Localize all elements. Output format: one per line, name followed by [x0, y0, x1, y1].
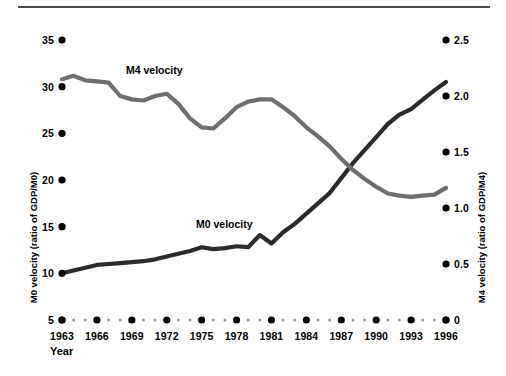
y-axis-tick-dot	[442, 316, 449, 323]
x-axis-tick-label: 1981	[260, 330, 284, 342]
series-lines-group	[62, 76, 446, 273]
x-axis-minor-dot	[189, 319, 192, 322]
x-axis-minor-dot	[247, 319, 250, 322]
y-axis-right-tick-label: 1.0	[454, 202, 469, 214]
x-axis-tick-label: 1996	[434, 330, 458, 342]
y-axis-tick-dot	[58, 130, 65, 137]
x-axis-tick-label: 1993	[399, 330, 423, 342]
x-axis-major-dot	[407, 316, 414, 323]
x-axis-tick-label: 1972	[155, 330, 179, 342]
y-axis-right-tick-label: 2.5	[454, 34, 469, 46]
y-axis-tick-dot	[58, 223, 65, 230]
y-axis-tick-dot	[442, 204, 449, 211]
x-axis-tick-label: 1987	[329, 330, 353, 342]
x-axis-tick-label: 1990	[364, 330, 388, 342]
y-axis-tick-dot	[58, 316, 65, 323]
x-axis-minor-dot	[107, 319, 110, 322]
x-axis-minor-dot	[317, 319, 320, 322]
y-axis-left-tick-label: 30	[6, 81, 54, 93]
x-axis-major-dot	[93, 316, 100, 323]
chart-plot-area	[0, 0, 506, 376]
x-axis-minor-dot	[328, 319, 331, 322]
x-axis-minor-dot	[398, 319, 401, 322]
y-axis-right-title: M4 velocity (ratio of GDP/M4)	[476, 143, 487, 333]
x-axis-tick-label: 1969	[120, 330, 144, 342]
x-axis-minor-dot	[363, 319, 366, 322]
y-axis-right-dot-markers	[442, 36, 449, 323]
x-axis-minor-dot	[433, 319, 436, 322]
series-annotation-m0: M0 velocity	[196, 218, 253, 230]
x-axis-tick-label: 1963	[50, 330, 74, 342]
x-axis-minor-dot	[119, 319, 122, 322]
x-axis-minor-dot	[421, 319, 424, 322]
x-axis-minor-dot	[154, 319, 157, 322]
chart-figure: 5101520253035 00.51.01.52.02.5 196319661…	[0, 0, 506, 376]
y-axis-tick-dot	[58, 176, 65, 183]
y-axis-tick-dot	[58, 83, 65, 90]
y-axis-right-tick-label: 0	[454, 314, 460, 326]
x-axis-minor-dot	[223, 319, 226, 322]
series-line-m0	[62, 82, 446, 273]
x-axis-minor-dot	[142, 319, 145, 322]
x-axis-tick-label: 1975	[190, 330, 214, 342]
x-axis-minor-dot	[84, 319, 87, 322]
x-axis-tick-label: 1966	[85, 330, 109, 342]
y-axis-tick-dot	[58, 270, 65, 277]
y-axis-tick-dot	[442, 260, 449, 267]
x-axis-minor-dot	[386, 319, 389, 322]
x-axis-major-dot	[233, 316, 240, 323]
x-axis-major-dot	[373, 316, 380, 323]
x-axis-minor-dot	[177, 319, 180, 322]
x-axis-tick-label: 1978	[225, 330, 249, 342]
y-axis-right-tick-label: 1.5	[454, 146, 469, 158]
x-axis-dot-markers	[58, 316, 449, 323]
x-axis-major-dot	[198, 316, 205, 323]
x-axis-major-dot	[128, 316, 135, 323]
x-axis-major-dot	[303, 316, 310, 323]
y-axis-tick-dot	[58, 36, 65, 43]
x-axis-minor-dot	[212, 319, 215, 322]
y-axis-tick-dot	[442, 148, 449, 155]
x-axis-major-dot	[338, 316, 345, 323]
y-axis-left-tick-label: 25	[6, 127, 54, 139]
x-axis-minor-dot	[258, 319, 261, 322]
y-axis-right-tick-label: 2.0	[454, 90, 469, 102]
y-axis-tick-dot	[442, 36, 449, 43]
x-axis-tick-label: 1984	[294, 330, 318, 342]
y-axis-left-tick-label: 35	[6, 34, 54, 46]
series-annotation-m4: M4 velocity	[126, 64, 183, 76]
x-axis-major-dot	[163, 316, 170, 323]
x-axis-title: Year	[50, 345, 73, 357]
x-axis-minor-dot	[293, 319, 296, 322]
x-axis-minor-dot	[351, 319, 354, 322]
x-axis-minor-dot	[282, 319, 285, 322]
x-axis-major-dot	[268, 316, 275, 323]
series-line-m4	[62, 76, 446, 197]
x-axis-minor-dot	[72, 319, 75, 322]
y-axis-tick-dot	[442, 92, 449, 99]
y-axis-right-tick-label: 0.5	[454, 258, 469, 270]
y-axis-left-title: M0 velocity (ratio of GDP/M0)	[28, 143, 39, 333]
